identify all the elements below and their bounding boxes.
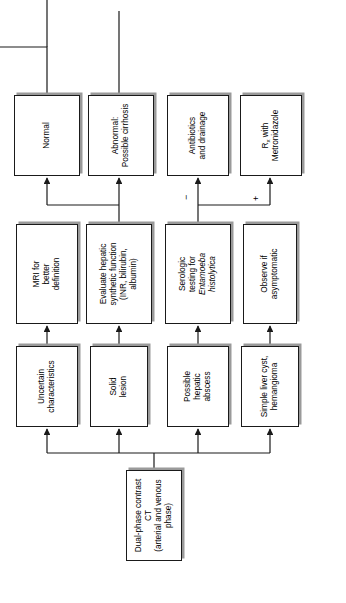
node-outcome3-line2: Possible cirrhosis bbox=[121, 104, 131, 168]
node-normal[interactable]: Normal bbox=[14, 95, 80, 176]
edge-label-positive: + bbox=[252, 196, 261, 201]
node-root-line2: (arterial and venous phase) bbox=[154, 473, 174, 558]
node-step2-line4: histolytica bbox=[208, 253, 218, 295]
node-mri-better-definition[interactable]: MRI for better definition bbox=[16, 224, 78, 324]
node-serologic-testing-entamoeba[interactable]: Serologic testing for Entamoeba histolyt… bbox=[165, 224, 231, 324]
node-outcome1-line2: Metronidazole bbox=[271, 110, 281, 161]
node-evaluate-hepatic-synthetic-function[interactable]: Evaluate hepatic synthetic function (INR… bbox=[86, 224, 152, 324]
node-root-line1: Dual-phase contrast CT bbox=[134, 473, 154, 558]
edge-label-negative: − bbox=[182, 195, 191, 200]
node-step3-line4: albumin) bbox=[129, 242, 139, 305]
node-solid-lesion[interactable]: Solid lesion bbox=[90, 346, 148, 427]
node-abnormal-possible-cirrhosis[interactable]: Abnormal: Possible cirrhosis bbox=[88, 95, 154, 176]
node-simple-liver-cyst-hemangioma[interactable]: Simple liver cyst, hemangioma bbox=[241, 346, 299, 427]
node-branch4-line2: characteristics bbox=[47, 360, 57, 412]
node-outcome1-subscript: x bbox=[264, 139, 271, 142]
flowchart-canvas: Dual-phase contrast CT (arterial and ven… bbox=[0, 0, 346, 603]
edge-normal-continuation bbox=[0, 47, 47, 95]
rotated-diagram-wrapper: Dual-phase contrast CT (arterial and ven… bbox=[0, 0, 346, 603]
node-branch3-line2: lesion bbox=[119, 376, 129, 397]
node-branch1-line2: hemangioma bbox=[270, 356, 280, 417]
node-uncertain-characteristics[interactable]: Uncertain characteristics bbox=[16, 346, 78, 427]
node-observe-if-asymptomatic[interactable]: Observe if asymptomatic bbox=[243, 224, 297, 324]
node-rx-with-metronidazole[interactable]: Rx with Metronidazole bbox=[240, 95, 302, 176]
node-outcome4-line1: Normal bbox=[42, 122, 52, 148]
node-step4-line3: definition bbox=[52, 258, 62, 291]
node-step1-line2: asymptomatic bbox=[270, 249, 280, 300]
node-antibiotics-and-drainage[interactable]: Antibiotics and drainage bbox=[167, 95, 229, 176]
node-outcome2-line2: and drainage bbox=[198, 112, 208, 160]
node-root[interactable]: Dual-phase contrast CT (arterial and ven… bbox=[126, 470, 182, 561]
node-possible-hepatic-abscess[interactable]: Possible hepatic abscess bbox=[167, 346, 229, 427]
node-branch2-line3: abscess bbox=[203, 371, 213, 402]
